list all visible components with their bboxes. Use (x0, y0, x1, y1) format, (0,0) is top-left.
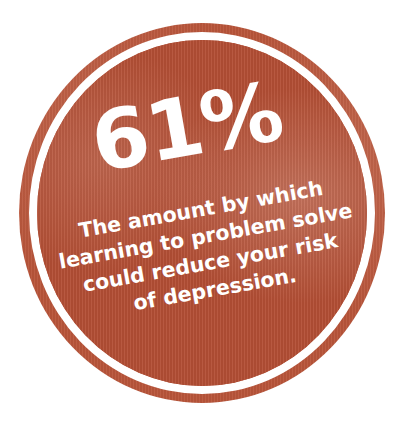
badge-content: 61% The amount by which learning to prob… (0, 0, 403, 434)
